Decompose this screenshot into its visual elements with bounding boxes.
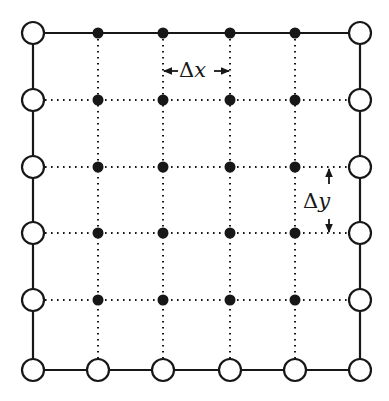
boundary-node bbox=[22, 289, 44, 311]
boundary-node bbox=[284, 359, 306, 381]
grid-node bbox=[290, 28, 301, 39]
grid-node bbox=[225, 295, 236, 306]
grid-node bbox=[225, 228, 236, 239]
delta-x-variable: x bbox=[194, 58, 206, 82]
figure-canvas: Δx Δy bbox=[0, 0, 389, 401]
delta-x-label: Δx bbox=[179, 60, 206, 81]
boundary-node bbox=[349, 156, 371, 178]
grid-node bbox=[290, 228, 301, 239]
delta-y-label: Δy bbox=[303, 191, 330, 212]
boundary-node bbox=[22, 359, 44, 381]
boundary-node bbox=[152, 359, 174, 381]
grid-node bbox=[158, 295, 169, 306]
delta-x-symbol: Δ bbox=[179, 58, 194, 82]
delta-x-arrowhead-right bbox=[221, 67, 230, 75]
grid-node bbox=[290, 162, 301, 173]
grid-node bbox=[225, 28, 236, 39]
grid-node bbox=[290, 295, 301, 306]
grid-node bbox=[93, 228, 104, 239]
grid-node bbox=[93, 162, 104, 173]
boundary-node bbox=[349, 359, 371, 381]
grid-node bbox=[225, 162, 236, 173]
boundary-node bbox=[219, 359, 241, 381]
boundary-node bbox=[22, 222, 44, 244]
grid-node bbox=[158, 95, 169, 106]
grid-node bbox=[290, 95, 301, 106]
boundary-node bbox=[22, 89, 44, 111]
boundary-node bbox=[349, 222, 371, 244]
grid-node bbox=[158, 162, 169, 173]
delta-y-arrowhead-bottom bbox=[325, 224, 333, 233]
boundary-node bbox=[87, 359, 109, 381]
grid-node bbox=[93, 28, 104, 39]
delta-y-arrowhead-top bbox=[325, 168, 333, 177]
boundary-node bbox=[349, 89, 371, 111]
delta-x-arrowhead-left bbox=[163, 67, 172, 75]
grid-node bbox=[93, 95, 104, 106]
boundary-node bbox=[22, 156, 44, 178]
grid-node bbox=[225, 95, 236, 106]
grid-node bbox=[158, 228, 169, 239]
delta-y-variable: y bbox=[318, 189, 330, 213]
boundary-node bbox=[22, 22, 44, 44]
boundary-node bbox=[349, 289, 371, 311]
interior-vertical-gridlines bbox=[98, 33, 295, 370]
grid-node bbox=[93, 295, 104, 306]
grid-node bbox=[158, 28, 169, 39]
delta-y-symbol: Δ bbox=[303, 189, 318, 213]
boundary-node bbox=[349, 22, 371, 44]
